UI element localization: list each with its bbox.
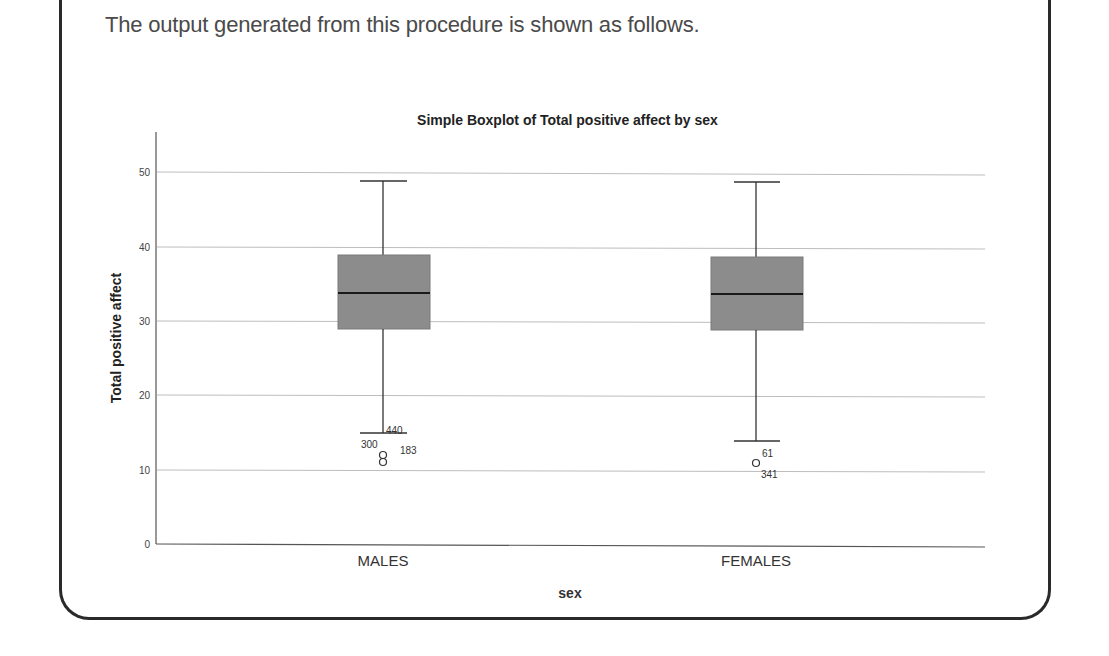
gridline-20 <box>157 395 985 397</box>
outlier-marker-males-183 <box>380 459 387 466</box>
x-axis-line <box>156 544 985 547</box>
box-females <box>711 182 803 467</box>
boxplot-canvas <box>0 0 1109 656</box>
gridline-50 <box>157 172 985 175</box>
gridline-30 <box>157 321 985 323</box>
outlier-marker-females <box>753 460 760 467</box>
gridline-10 <box>157 470 985 472</box>
gridlines <box>157 172 985 472</box>
outlier-label-61: 61 <box>762 448 773 459</box>
box-males <box>338 181 430 466</box>
outlier-marker-males-300 <box>380 452 387 459</box>
gridline-40 <box>157 247 985 249</box>
outlier-label-300: 300 <box>361 439 378 450</box>
outlier-label-183: 183 <box>400 445 417 456</box>
outlier-label-440: 440 <box>386 425 403 436</box>
outlier-label-341: 341 <box>761 469 778 480</box>
